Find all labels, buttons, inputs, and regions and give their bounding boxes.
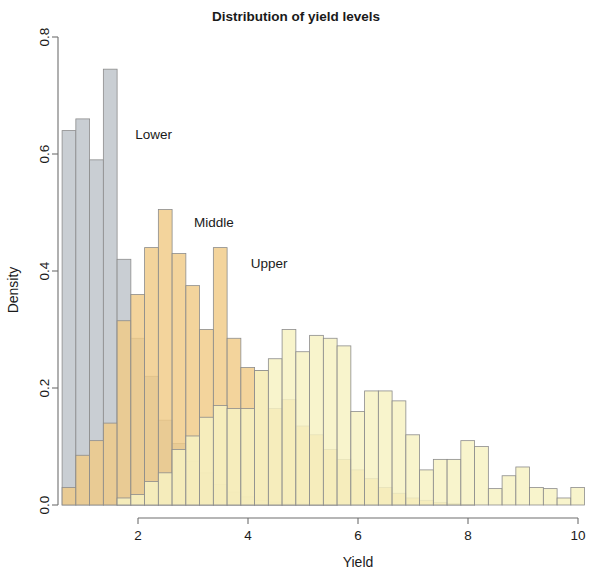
x-axis-tick-label: 6 (354, 528, 362, 543)
y-axis-tick-label: 0.4 (37, 261, 52, 280)
y-axis-tick-label: 0.6 (37, 145, 52, 164)
histogram-bar (488, 489, 502, 505)
histogram-bar (145, 248, 159, 505)
histogram-bar (392, 401, 406, 505)
x-axis-tick-label: 4 (244, 528, 252, 543)
series-label-lower: Lower (135, 127, 172, 142)
histogram-bar (241, 408, 255, 505)
histogram-bar (172, 449, 186, 505)
histogram-bar (76, 455, 90, 505)
histogram-bar (378, 391, 392, 505)
histogram-bar (76, 119, 90, 505)
histogram-bar (158, 473, 172, 505)
x-axis-tick-label: 8 (464, 528, 472, 543)
y-axis-title: Density (5, 267, 21, 314)
histogram-bar (131, 294, 145, 505)
histogram-bar (62, 487, 76, 505)
histogram-bar (461, 441, 475, 505)
histogram-bar (351, 411, 365, 505)
histogram-bar (557, 498, 571, 505)
histogram-bar (337, 346, 351, 505)
histogram-bar (200, 417, 214, 505)
series-label-middle: Middle (194, 215, 234, 230)
histogram-bar (530, 487, 544, 505)
histogram-bar (90, 441, 104, 505)
histogram-bar (62, 131, 76, 505)
histogram-bar (117, 321, 131, 505)
y-axis-tick-label: 0.8 (37, 28, 52, 47)
histogram-svg: Distribution of yield levels 0.00.20.40.… (0, 0, 591, 577)
histogram-bar (516, 467, 530, 505)
histogram-bar (131, 494, 145, 505)
histogram-bar (103, 423, 117, 505)
histogram-bar (213, 406, 227, 505)
histogram-bar (145, 482, 159, 505)
chart-title: Distribution of yield levels (212, 9, 380, 24)
histogram-bar (186, 436, 200, 505)
x-axis-tick-label: 2 (134, 528, 142, 543)
histogram-bar (433, 459, 447, 505)
histogram-bar (296, 352, 310, 505)
histogram-bar (255, 370, 269, 505)
histogram-bar (475, 447, 489, 506)
histogram-bar (310, 335, 324, 505)
x-axis-tick-label: 10 (570, 528, 585, 543)
x-axis-title: Yield (343, 554, 374, 570)
histogram-bar (365, 391, 379, 505)
y-axis-tick-label: 0.2 (37, 379, 52, 398)
histogram-bar (282, 330, 296, 506)
histogram-bar (447, 459, 461, 505)
histogram-bar (406, 435, 420, 505)
histogram-bar (571, 487, 585, 505)
y-axis-tick-label: 0.0 (37, 496, 52, 515)
histogram-bar (502, 476, 516, 505)
chart-figure: Distribution of yield levels 0.00.20.40.… (0, 0, 591, 577)
histogram-bar (117, 498, 131, 505)
series-label-upper: Upper (251, 256, 288, 271)
histogram-bar (323, 338, 337, 505)
histogram-bar (543, 489, 557, 505)
histogram-bar (420, 470, 434, 505)
histogram-bar (268, 359, 282, 505)
histogram-bar (158, 210, 172, 505)
histogram-bar (227, 408, 241, 505)
